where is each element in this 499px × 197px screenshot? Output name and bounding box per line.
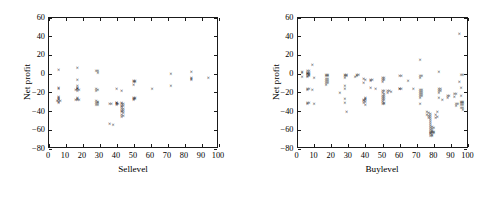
x-tick-mark-top xyxy=(365,18,366,21)
y-tick-mark-right xyxy=(214,18,217,19)
y-tick-label: 20 xyxy=(21,50,45,59)
x-tick-label: 30 xyxy=(344,151,352,160)
y-tick-mark xyxy=(298,92,301,93)
x-tick-mark xyxy=(451,144,452,147)
x-tick-mark xyxy=(468,144,469,147)
x-tick-mark xyxy=(134,144,135,147)
y-tick-label: −80 xyxy=(270,144,294,153)
x-tick-mark xyxy=(297,144,298,147)
chart-panel-buylevel: Net profit Buylevel 01020304050607080901… xyxy=(250,0,499,197)
x-tick-mark-top xyxy=(314,18,315,21)
x-axis-title-left: Sellevel xyxy=(118,164,148,174)
y-tick-label: −80 xyxy=(21,144,45,153)
y-tick-mark-right xyxy=(464,149,467,150)
y-tick-mark xyxy=(49,92,52,93)
x-axis-title-right: Buylevel xyxy=(365,164,398,174)
x-tick-mark xyxy=(168,144,169,147)
y-tick-mark xyxy=(49,55,52,56)
y-tick-mark xyxy=(49,149,52,150)
x-tick-mark-top xyxy=(331,18,332,21)
x-tick-mark xyxy=(417,144,418,147)
chart-panel-sellevel: Net profit Sellevel 01020304050607080901… xyxy=(0,0,250,197)
x-tick-label: 50 xyxy=(129,151,137,160)
figure-container: Net profit Sellevel 01020304050607080901… xyxy=(0,0,499,197)
y-tick-mark xyxy=(298,55,301,56)
x-tick-mark xyxy=(348,144,349,147)
y-tick-mark-right xyxy=(214,149,217,150)
x-tick-mark xyxy=(151,144,152,147)
x-tick-mark-top xyxy=(185,18,186,21)
x-tick-mark-top xyxy=(400,18,401,21)
x-tick-label: 100 xyxy=(461,151,473,160)
y-tick-mark-right xyxy=(464,18,467,19)
x-tick-label: 100 xyxy=(212,151,224,160)
y-tick-label: −20 xyxy=(21,87,45,96)
y-tick-mark xyxy=(298,111,301,112)
x-tick-label: 40 xyxy=(112,151,120,160)
y-tick-label: 0 xyxy=(270,69,294,78)
x-tick-label: 40 xyxy=(361,151,369,160)
y-tick-mark xyxy=(49,18,52,19)
x-tick-mark xyxy=(434,144,435,147)
x-tick-mark-top xyxy=(100,18,101,21)
y-tick-mark xyxy=(298,36,301,37)
y-tick-label: −40 xyxy=(21,106,45,115)
x-tick-mark-top xyxy=(134,18,135,21)
x-tick-mark xyxy=(117,144,118,147)
x-tick-label: 80 xyxy=(180,151,188,160)
x-tick-mark-top xyxy=(417,18,418,21)
y-tick-label: 40 xyxy=(270,31,294,40)
y-tick-mark xyxy=(49,111,52,112)
x-tick-mark-top xyxy=(451,18,452,21)
x-tick-mark-top xyxy=(168,18,169,21)
x-tick-label: 50 xyxy=(378,151,386,160)
y-tick-label: 0 xyxy=(21,69,45,78)
y-tick-mark-right xyxy=(464,130,467,131)
y-tick-mark-right xyxy=(214,74,217,75)
x-tick-mark-top xyxy=(202,18,203,21)
x-tick-label: 90 xyxy=(446,151,454,160)
y-tick-mark-right xyxy=(214,130,217,131)
x-tick-label: 10 xyxy=(61,151,69,160)
y-tick-label: −60 xyxy=(21,125,45,134)
y-tick-label: 20 xyxy=(270,50,294,59)
x-tick-label: 60 xyxy=(395,151,403,160)
x-tick-mark-top xyxy=(348,18,349,21)
y-tick-mark xyxy=(298,149,301,150)
y-tick-mark xyxy=(49,36,52,37)
y-tick-label: 40 xyxy=(21,31,45,40)
x-tick-label: 0 xyxy=(46,151,50,160)
x-tick-label: 70 xyxy=(163,151,171,160)
x-tick-mark xyxy=(202,144,203,147)
x-tick-mark-top xyxy=(83,18,84,21)
y-tick-mark-right xyxy=(214,111,217,112)
y-tick-label: −60 xyxy=(270,125,294,134)
x-tick-label: 20 xyxy=(327,151,335,160)
x-tick-mark-top xyxy=(434,18,435,21)
x-tick-mark xyxy=(66,144,67,147)
x-tick-label: 70 xyxy=(412,151,420,160)
x-tick-mark-top xyxy=(151,18,152,21)
x-tick-mark-top xyxy=(383,18,384,21)
y-tick-label: 60 xyxy=(21,13,45,22)
x-tick-mark xyxy=(400,144,401,147)
y-tick-label: −20 xyxy=(270,87,294,96)
x-tick-label: 20 xyxy=(78,151,86,160)
y-tick-mark xyxy=(298,18,301,19)
x-tick-label: 30 xyxy=(95,151,103,160)
x-tick-mark xyxy=(331,144,332,147)
y-tick-mark-right xyxy=(464,36,467,37)
x-tick-mark xyxy=(185,144,186,147)
y-tick-mark-right xyxy=(464,55,467,56)
x-tick-mark-top xyxy=(117,18,118,21)
x-tick-label: 60 xyxy=(146,151,154,160)
x-tick-mark-top xyxy=(468,18,469,21)
x-tick-label: 90 xyxy=(197,151,205,160)
y-tick-label: −40 xyxy=(270,106,294,115)
y-tick-mark xyxy=(298,130,301,131)
x-tick-label: 10 xyxy=(309,151,317,160)
y-tick-mark xyxy=(49,74,52,75)
x-tick-label: 0 xyxy=(294,151,298,160)
x-tick-mark-top xyxy=(66,18,67,21)
x-tick-mark-top xyxy=(219,18,220,21)
